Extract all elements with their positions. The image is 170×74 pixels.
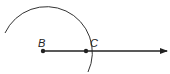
diagram-svg bbox=[0, 0, 170, 74]
geometry-diagram: B C bbox=[0, 0, 170, 74]
compass-arc bbox=[5, 7, 92, 72]
label-c: C bbox=[90, 38, 98, 49]
label-b: B bbox=[38, 38, 45, 49]
point-c bbox=[84, 49, 88, 53]
point-b bbox=[41, 49, 45, 53]
